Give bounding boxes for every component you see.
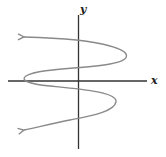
graph-canvas: y x bbox=[0, 0, 166, 157]
coordinate-graph: y x bbox=[0, 0, 166, 157]
sideways-sine-curve bbox=[24, 37, 127, 130]
x-axis-label: x bbox=[150, 74, 158, 87]
y-axis-label: y bbox=[79, 3, 88, 16]
